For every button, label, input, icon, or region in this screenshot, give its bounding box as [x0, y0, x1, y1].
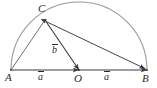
vector-b-CO	[45, 20, 79, 70]
geometry-figure: A O B C a a b	[0, 0, 157, 88]
point-label-O: O	[74, 73, 82, 84]
point-label-C: C	[38, 3, 45, 14]
point-label-B: B	[142, 73, 149, 84]
vector-label-b-CO: b	[52, 45, 57, 55]
point-label-A: A	[5, 72, 12, 83]
vector-label-a-AO: a	[38, 72, 43, 82]
vector-label-a-OB-glyph: a	[104, 71, 109, 82]
point-C-dot	[44, 19, 46, 21]
point-B-dot	[146, 69, 148, 71]
point-O-dot	[78, 69, 80, 71]
vector-label-b-CO-glyph: b	[52, 44, 57, 55]
vector-label-a-AO-glyph: a	[38, 71, 43, 82]
segment-CB	[46, 22, 145, 69]
vector-label-a-OB: a	[104, 72, 109, 82]
